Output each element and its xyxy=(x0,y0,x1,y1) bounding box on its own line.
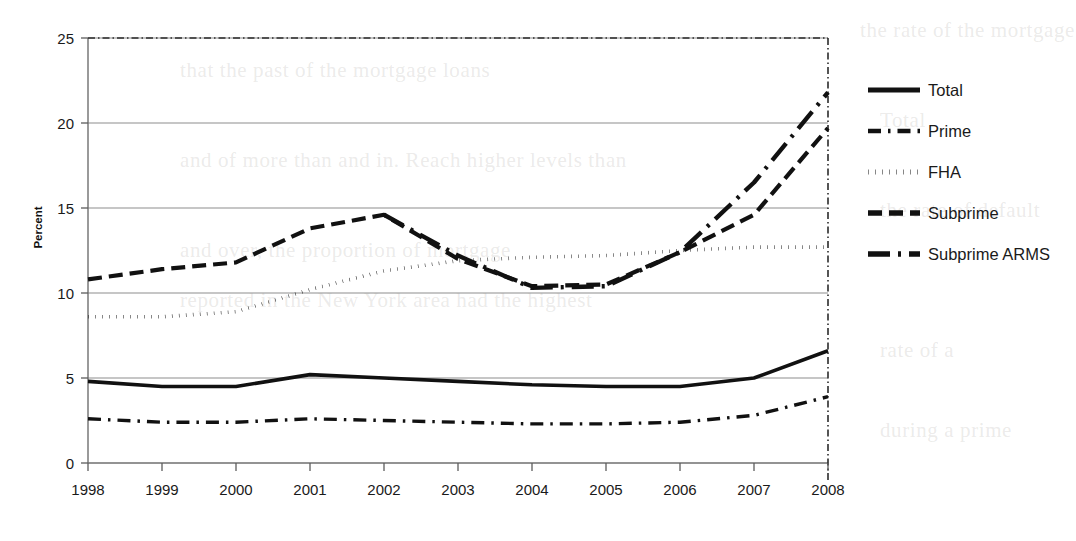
series-line-prime xyxy=(88,397,828,424)
x-tick-label: 2003 xyxy=(441,481,474,498)
y-tick-label: 25 xyxy=(57,30,74,47)
x-tick-label: 1999 xyxy=(145,481,178,498)
x-tick-labels: 1998199920002001200220032004200520062007… xyxy=(71,481,844,498)
x-tick-label: 2004 xyxy=(515,481,548,498)
legend-label-subprime-arms: Subprime ARMS xyxy=(928,245,1050,263)
legend-label-fha: FHA xyxy=(928,163,961,181)
x-tick-label: 2008 xyxy=(811,481,844,498)
chart-figure: the rate of the mortgage that the past o… xyxy=(0,0,1076,541)
legend-label-prime: Prime xyxy=(928,122,971,140)
x-tick-label: 2006 xyxy=(663,481,696,498)
y-tick-label: 5 xyxy=(66,370,74,387)
x-tick-label: 2001 xyxy=(293,481,326,498)
axes-group xyxy=(88,38,828,481)
x-tick-label: 2007 xyxy=(737,481,770,498)
y-tick-labels: 2520151050 xyxy=(57,30,74,472)
y-tick-label: 20 xyxy=(57,115,74,132)
x-tick-label: 1998 xyxy=(71,481,104,498)
y-tick-label: 0 xyxy=(66,455,74,472)
legend-label-subprime: Subprime xyxy=(928,204,999,222)
y-tick-label: 10 xyxy=(57,285,74,302)
series-group xyxy=(88,92,828,424)
series-line-subprime-arms xyxy=(384,92,828,288)
x-tick-label: 2002 xyxy=(367,481,400,498)
x-tick-label: 2005 xyxy=(589,481,622,498)
line-chart: 2520151050 19981999200020012002200320042… xyxy=(0,0,1076,541)
series-line-subprime xyxy=(88,128,828,286)
chart-legend: TotalPrimeFHASubprimeSubprime ARMS xyxy=(868,81,1050,263)
y-axis-title-text: Percent xyxy=(32,206,44,248)
y-tick-label: 15 xyxy=(57,200,74,217)
series-line-total xyxy=(88,351,828,387)
y-axis-title: Percent xyxy=(32,206,44,248)
x-tick-label: 2000 xyxy=(219,481,252,498)
gridlines-group xyxy=(88,38,828,378)
legend-label-total: Total xyxy=(928,81,963,99)
